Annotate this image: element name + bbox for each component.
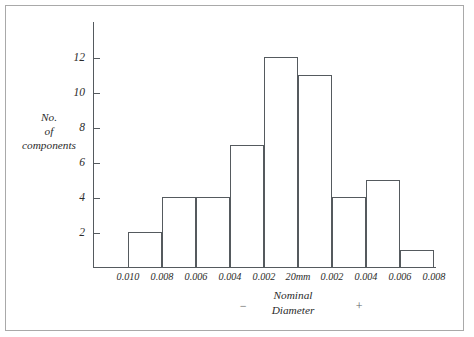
chart-page: 12 10 8 6 4 2 No. of components 0.010 0.… bbox=[0, 0, 474, 337]
histogram-bar bbox=[196, 197, 230, 267]
y-tick-label-4: 4 bbox=[55, 191, 85, 203]
histogram-bar bbox=[264, 57, 298, 267]
histogram-bar bbox=[298, 75, 332, 268]
y-axis-title-line-3: components bbox=[12, 138, 86, 152]
y-tick-mark-12 bbox=[93, 58, 100, 59]
histogram-plot-area: 12 10 8 6 4 2 No. of components 0.010 0.… bbox=[0, 0, 474, 337]
histogram-bar bbox=[366, 180, 400, 268]
histogram-bar bbox=[400, 250, 434, 268]
y-tick-label-10: 10 bbox=[55, 86, 85, 98]
y-tick-label-12: 12 bbox=[55, 51, 85, 63]
histogram-bar bbox=[332, 197, 366, 267]
histogram-bar bbox=[162, 197, 196, 267]
y-tick-mark-2 bbox=[93, 233, 100, 234]
minus-sign-annotation: − bbox=[236, 299, 250, 314]
y-axis-title: No. of components bbox=[12, 110, 86, 152]
y-tick-label-2: 2 bbox=[55, 226, 85, 238]
plus-sign-annotation: + bbox=[352, 299, 366, 314]
y-axis-title-line-2: of bbox=[12, 124, 86, 138]
x-axis-title-line-2: Diameter bbox=[248, 303, 338, 318]
y-axis-line bbox=[93, 22, 94, 268]
y-tick-label-6: 6 bbox=[55, 156, 85, 168]
x-axis-title: Nominal Diameter bbox=[248, 288, 338, 317]
y-tick-mark-6 bbox=[93, 163, 100, 164]
y-tick-mark-4 bbox=[93, 198, 100, 199]
histogram-bar bbox=[128, 232, 162, 267]
histogram-bar bbox=[230, 145, 264, 268]
x-axis-title-line-1: Nominal bbox=[248, 288, 338, 303]
x-tick-label-9: 0.008 bbox=[411, 271, 457, 282]
y-axis-title-line-1: No. bbox=[12, 110, 86, 124]
y-tick-mark-10 bbox=[93, 93, 100, 94]
y-tick-mark-8 bbox=[93, 128, 100, 129]
